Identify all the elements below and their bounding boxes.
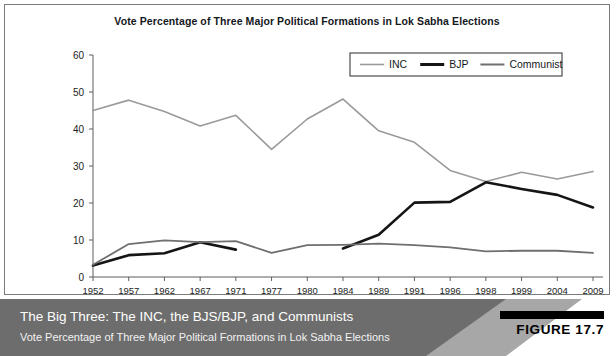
y-axis-tick-label: 10 — [73, 235, 85, 246]
chart-panel: Vote Percentage of Three Major Political… — [4, 4, 610, 295]
y-axis-tick-label: 50 — [73, 87, 85, 98]
x-axis: 1952195719621967197119771980198419891991… — [82, 277, 603, 294]
x-axis-tick-label: 1998 — [475, 285, 496, 294]
caption-subtitle: Vote Percentage of Three Major Political… — [20, 329, 460, 345]
series-line-inc — [93, 99, 593, 182]
figure-container: Vote Percentage of Three Major Political… — [0, 0, 616, 356]
figure-number-label: FIGURE 17.7 — [500, 322, 604, 337]
figure-caption-bar: The Big Three: The INC, the BJS/BJP, and… — [0, 299, 616, 356]
series-line-bjp — [343, 182, 593, 248]
y-axis-tick-label: 20 — [73, 198, 85, 209]
x-axis-tick-label: 1999 — [511, 285, 532, 294]
y-axis: 0102030405060 — [73, 50, 93, 283]
legend-label-bjp: BJP — [449, 58, 468, 70]
x-axis-tick-label: 1984 — [332, 285, 353, 294]
data-series-group — [93, 99, 593, 266]
x-axis-tick-label: 1962 — [154, 285, 175, 294]
chart-legend: INCBJPCommunist — [350, 53, 563, 76]
x-axis-tick-label: 1980 — [297, 285, 318, 294]
caption-text-group: The Big Three: The INC, the BJS/BJP, and… — [20, 307, 460, 345]
x-axis-tick-label: 1991 — [404, 285, 425, 294]
x-axis-tick-label: 1957 — [118, 285, 139, 294]
y-axis-tick-label: 60 — [73, 50, 85, 61]
series-line-bjp — [93, 242, 236, 265]
y-axis-tick-label: 0 — [78, 272, 84, 283]
x-axis-tick-label: 1989 — [368, 285, 389, 294]
x-axis-tick-label: 1967 — [190, 285, 211, 294]
y-axis-tick-label: 30 — [73, 161, 85, 172]
legend-label-communist: Communist — [509, 58, 562, 70]
figure-rule-bar — [500, 311, 604, 319]
figure-number-block: FIGURE 17.7 — [500, 311, 604, 337]
y-axis-tick-label: 40 — [73, 124, 85, 135]
x-axis-tick-label: 1996 — [440, 285, 461, 294]
x-axis-tick-label: 1952 — [82, 285, 103, 294]
legend-label-inc: INC — [389, 58, 408, 70]
x-axis-tick-label: 2009 — [582, 285, 603, 294]
line-chart-plot: 0102030405060 19521957196219671971197719… — [5, 5, 611, 294]
x-axis-tick-label: 1977 — [261, 285, 282, 294]
caption-title: The Big Three: The INC, the BJS/BJP, and… — [20, 307, 460, 326]
x-axis-tick-label: 2004 — [547, 285, 568, 294]
x-axis-tick-label: 1971 — [225, 285, 246, 294]
